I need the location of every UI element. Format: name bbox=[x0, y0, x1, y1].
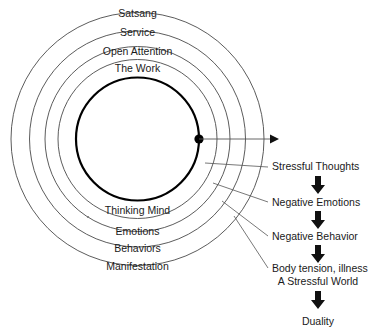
chain-negative-behavior: Negative Behavior bbox=[272, 230, 358, 242]
diagram-canvas: SatsangServiceOpen AttentionThe WorkThin… bbox=[0, 0, 378, 335]
concentric-rings-diagram: SatsangServiceOpen AttentionThe WorkThin… bbox=[0, 0, 378, 335]
chain-arrow-1 bbox=[311, 176, 325, 194]
ring-service-label: Service bbox=[120, 26, 155, 38]
chain-arrow-4 bbox=[311, 291, 325, 309]
ink-speck bbox=[87, 216, 89, 218]
chain-negative-emotions-leader bbox=[213, 183, 268, 202]
consequence-chain-group: Stressful ThoughtsNegative EmotionsNegat… bbox=[272, 160, 368, 327]
core-thinking-mind-label: Thinking Mind bbox=[105, 204, 171, 216]
chain-body-tension-leader bbox=[234, 216, 268, 268]
chain-body-tension: Body tension, illness bbox=[272, 262, 368, 274]
ring-emotions-label: Emotions bbox=[116, 225, 160, 237]
chain-stressful-thoughts: Stressful Thoughts bbox=[272, 160, 359, 172]
chain-stressful-thoughts-leader bbox=[205, 163, 268, 167]
chain-arrow-3 bbox=[311, 245, 325, 263]
chain-negative-emotions: Negative Emotions bbox=[272, 196, 360, 208]
ring-the-work-label: The Work bbox=[115, 62, 161, 74]
outward-axis-arrow-head bbox=[270, 135, 279, 144]
axis-arrow-group bbox=[194, 134, 279, 143]
ring-behaviors-label: Behaviors bbox=[114, 242, 161, 254]
ring-manifestation-label: Manifestation bbox=[106, 260, 169, 272]
leader-lines-group bbox=[205, 163, 268, 268]
chain-arrow-2 bbox=[311, 211, 325, 229]
ring-open-attention-label: Open Attention bbox=[103, 45, 173, 57]
chain-duality: Duality bbox=[302, 315, 335, 327]
core-thinking-mind-circle bbox=[76, 78, 199, 201]
ring-satsang-label: Satsang bbox=[118, 7, 157, 19]
chain-stressful-world: A Stressful World bbox=[278, 275, 358, 287]
